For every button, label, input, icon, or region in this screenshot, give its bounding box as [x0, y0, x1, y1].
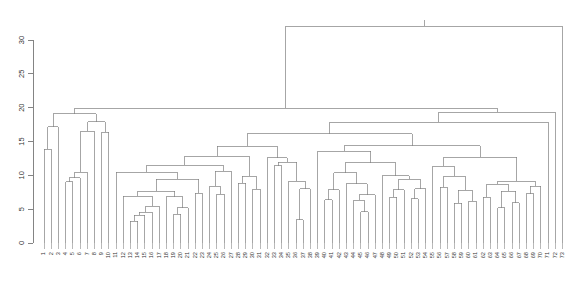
x-axis-tick-label: 37 — [300, 252, 306, 258]
x-axis-tick-label: 26 — [220, 252, 226, 258]
x-axis-tick-label: 56 — [436, 252, 442, 258]
y-axis-tick-label: 5 — [17, 207, 26, 211]
x-axis-tick-label: 32 — [264, 252, 270, 258]
x-axis-tick-label: 72 — [552, 252, 558, 258]
x-axis-tick-label: 63 — [487, 252, 493, 258]
x-axis-tick-label: 47 — [372, 252, 378, 258]
x-axis-tick-label: 40 — [321, 252, 327, 258]
x-axis-tick-label: 7 — [84, 252, 90, 255]
x-axis-tick-label: 4 — [62, 252, 68, 255]
x-axis-tick-label: 45 — [357, 252, 363, 258]
x-axis-tick-label: 60 — [465, 252, 471, 258]
x-axis-tick-label: 66 — [508, 252, 514, 258]
x-axis-tick-label: 15 — [141, 252, 147, 258]
x-axis-tick-label: 41 — [328, 252, 334, 258]
y-axis-tick-label: 0 — [17, 241, 26, 245]
x-axis-tick-label: 28 — [235, 252, 241, 258]
x-axis-tick-label: 33 — [271, 252, 277, 258]
x-axis-tick-label: 48 — [379, 252, 385, 258]
x-axis-tick-label: 42 — [336, 252, 342, 258]
x-axis-tick-label: 18 — [163, 252, 169, 258]
x-axis-tick-label: 25 — [213, 252, 219, 258]
x-axis-tick-label: 52 — [408, 252, 414, 258]
x-axis-tick-label: 65 — [501, 252, 507, 258]
x-axis-tick-label: 1 — [40, 252, 46, 255]
x-axis-tick-label: 64 — [494, 252, 500, 258]
x-axis-tick-label: 14 — [134, 252, 140, 258]
x-axis-tick-label: 20 — [177, 252, 183, 258]
x-axis-tick-label: 17 — [156, 252, 162, 258]
x-axis-tick-label: 29 — [242, 252, 248, 258]
dendrogram-canvas: 0510152025301234567891011121314151617181… — [0, 0, 586, 283]
y-axis-tick-label: 30 — [17, 36, 26, 44]
x-axis-tick-label: 53 — [415, 252, 421, 258]
x-axis-tick-label: 57 — [444, 252, 450, 258]
x-axis-tick-label: 8 — [91, 252, 97, 255]
x-axis-tick-label: 13 — [127, 252, 133, 258]
x-axis-tick-label: 9 — [98, 252, 104, 255]
x-axis-tick-label: 11 — [112, 252, 118, 258]
x-axis-tick-label: 6 — [76, 252, 82, 255]
y-axis-tick-label: 20 — [17, 103, 26, 111]
x-axis-tick-label: 36 — [292, 252, 298, 258]
x-axis-tick-label: 31 — [256, 252, 262, 258]
x-axis-tick-label: 62 — [480, 252, 486, 258]
x-axis-tick-label: 2 — [48, 252, 54, 255]
y-axis-tick-label: 15 — [17, 137, 26, 145]
x-axis-tick-label: 38 — [307, 252, 313, 258]
x-axis-tick-label: 51 — [400, 252, 406, 258]
x-axis-tick-label: 68 — [523, 252, 529, 258]
x-axis-tick-label: 34 — [278, 252, 284, 258]
x-axis-tick-label: 54 — [422, 252, 428, 258]
y-axis-tick-label: 10 — [17, 171, 26, 179]
x-axis-tick-label: 12 — [120, 252, 126, 258]
x-axis-tick-label: 10 — [105, 252, 111, 258]
x-axis-tick-label: 21 — [184, 252, 190, 258]
x-axis-tick-label: 5 — [69, 252, 75, 255]
x-axis-tick-label: 35 — [285, 252, 291, 258]
x-axis-tick-label: 67 — [516, 252, 522, 258]
x-axis-tick-label: 70 — [537, 252, 543, 258]
x-axis-tick-label: 43 — [343, 252, 349, 258]
x-axis-tick-label: 30 — [249, 252, 255, 258]
x-axis-tick-label: 58 — [451, 252, 457, 258]
x-axis-tick-label: 23 — [199, 252, 205, 258]
x-axis-tick-label: 69 — [530, 252, 536, 258]
x-axis-tick-label: 49 — [386, 252, 392, 258]
x-axis-tick-label: 73 — [559, 252, 565, 258]
x-axis-tick-label: 46 — [364, 252, 370, 258]
x-axis-tick-label: 50 — [393, 252, 399, 258]
x-axis-tick-label: 19 — [170, 252, 176, 258]
x-axis-tick-label: 61 — [472, 252, 478, 258]
x-axis-tick-label: 71 — [544, 252, 550, 258]
x-axis-tick-label: 27 — [228, 252, 234, 258]
x-axis-tick-label: 55 — [429, 252, 435, 258]
x-axis-tick-label: 16 — [148, 252, 154, 258]
dendrogram-figure: 0510152025301234567891011121314151617181… — [0, 0, 586, 283]
y-axis-tick-label: 25 — [17, 70, 26, 78]
x-axis-tick-label: 3 — [55, 252, 61, 255]
x-axis-tick-label: 44 — [350, 252, 356, 258]
x-axis-tick-label: 22 — [192, 252, 198, 258]
x-axis-tick-label: 59 — [458, 252, 464, 258]
x-axis-tick-label: 24 — [206, 252, 212, 258]
x-axis-tick-label: 39 — [314, 252, 320, 258]
